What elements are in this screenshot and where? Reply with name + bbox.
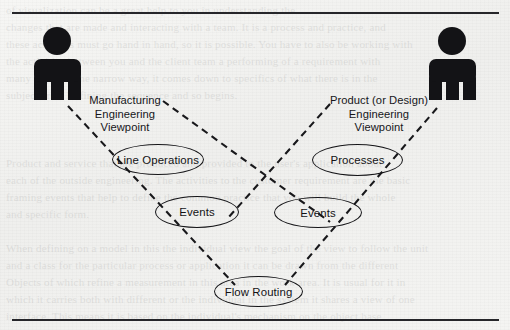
diagram-page: of visualization can be a great help to … <box>0 0 510 330</box>
viewpoint-label-line-1: Product (or Design) <box>325 94 433 108</box>
viewpoint-label-line-2: Engineering <box>325 108 433 122</box>
use-case-label: Line Operations <box>117 154 199 166</box>
viewpoint-label-manufacturing: Manufacturing Engineering Viewpoint <box>84 94 166 135</box>
viewpoint-label-line-2: Engineering <box>84 108 166 122</box>
use-case-processes[interactable]: Processes <box>312 144 403 176</box>
use-case-label: Events <box>179 206 214 218</box>
use-case-line-operations[interactable]: Line Operations <box>112 144 204 175</box>
viewpoint-label-line-1: Manufacturing <box>84 94 166 108</box>
viewpoint-label-line-3: Viewpoint <box>84 121 166 135</box>
use-case-flow-routing[interactable]: Flow Routing <box>214 276 303 307</box>
use-case-events-right[interactable]: Events <box>274 197 362 228</box>
person-actor-icon <box>424 26 478 102</box>
viewpoint-label-line-3: Viewpoint <box>325 121 433 135</box>
person-actor-icon <box>31 26 85 102</box>
use-case-label: Flow Routing <box>225 286 293 298</box>
use-case-events-left[interactable]: Events <box>155 196 239 228</box>
viewpoint-label-product: Product (or Design) Engineering Viewpoin… <box>325 94 433 135</box>
use-case-label: Processes <box>330 154 384 166</box>
actor-manufacturing-engineer[interactable] <box>31 26 85 102</box>
actor-product-engineer[interactable] <box>424 26 478 102</box>
use-case-label: Events <box>300 207 335 219</box>
